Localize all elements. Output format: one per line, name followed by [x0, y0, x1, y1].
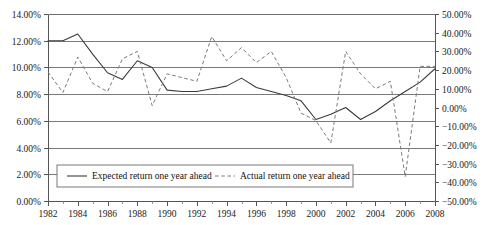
right-axis-tick-label: 10.00%	[442, 85, 471, 95]
x-axis-tick-label: 1988	[128, 209, 147, 219]
x-axis-tick-label: 2008	[426, 209, 445, 219]
left-axis-tick-label: 0.00%	[16, 197, 41, 207]
left-axis-tick-label: 12.00%	[12, 37, 41, 47]
right-axis-tick-label: −50.00%	[442, 197, 477, 207]
x-axis-tick-labels: 1982198419861988199019921994199619982000…	[39, 209, 445, 219]
x-axis-tick-label: 1998	[277, 209, 296, 219]
right-axis-tick-labels: −50.00%−40.00%−30.00%−20.00%−10.00%0.00%…	[442, 10, 477, 207]
left-axis-tick-label: 10.00%	[12, 63, 41, 73]
x-axis-tick-label: 2006	[396, 209, 415, 219]
left-axis-tick-label: 2.00%	[16, 170, 41, 180]
legend-label: Expected return one year ahead	[92, 171, 212, 181]
x-axis-tick-label: 1990	[158, 209, 177, 219]
x-axis-tick-label: 1984	[68, 209, 87, 219]
left-axis-tick-labels: 0.00%2.00%4.00%6.00%8.00%10.00%12.00%14.…	[12, 10, 41, 207]
left-axis-ticks	[44, 15, 48, 202]
legend-label: Actual return one year ahead	[240, 171, 350, 181]
right-axis-tick-label: 20.00%	[442, 66, 471, 76]
right-axis-tick-label: −30.00%	[442, 160, 477, 170]
series-line-expected	[48, 34, 435, 119]
chart-legend: Expected return one year aheadActual ret…	[57, 165, 353, 187]
x-axis-tick-label: 2002	[336, 209, 355, 219]
right-axis-tick-label: 50.00%	[442, 10, 471, 20]
x-axis-tick-label: 1996	[247, 209, 266, 219]
right-axis-tick-label: −10.00%	[442, 122, 477, 132]
left-axis-tick-label: 4.00%	[16, 144, 41, 154]
series-line-actual	[48, 36, 435, 176]
right-axis-tick-label: 30.00%	[442, 47, 471, 57]
line-chart: 0.00%2.00%4.00%6.00%8.00%10.00%12.00%14.…	[0, 0, 486, 225]
x-axis-tick-label: 2000	[306, 209, 325, 219]
x-axis-tick-label: 1994	[217, 209, 236, 219]
x-axis-tick-label: 1982	[39, 209, 58, 219]
right-axis-tick-label: 0.00%	[442, 104, 467, 114]
left-axis-tick-label: 8.00%	[16, 90, 41, 100]
right-axis-tick-label: −20.00%	[442, 141, 477, 151]
gridlines-group	[48, 15, 435, 175]
x-axis-tick-label: 1992	[187, 209, 206, 219]
x-axis-tick-label: 2004	[366, 209, 385, 219]
x-axis-tick-label: 1986	[98, 209, 117, 219]
right-axis-tick-label: −40.00%	[442, 178, 477, 188]
series-group	[48, 34, 435, 177]
right-axis-tick-label: 40.00%	[442, 29, 471, 39]
left-axis-tick-label: 14.00%	[12, 10, 41, 20]
left-axis-tick-label: 6.00%	[16, 117, 41, 127]
chart-container: 0.00%2.00%4.00%6.00%8.00%10.00%12.00%14.…	[0, 0, 486, 225]
